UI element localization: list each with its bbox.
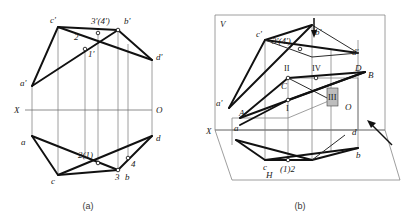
- right-label-d: d: [352, 127, 357, 137]
- right-label-B: B: [368, 70, 374, 80]
- left-label-34-prime: 3'(4'): [90, 16, 110, 26]
- point-4: [126, 156, 130, 160]
- left-label-21: 2(1): [78, 150, 93, 160]
- right-label-C: C: [281, 81, 288, 91]
- right-label-O: O: [345, 102, 352, 112]
- figure-canvas: X O a' c' b' d' a c b d 1' 2': [0, 0, 405, 221]
- left-label-d: d: [156, 133, 161, 143]
- right-label-V: V: [220, 19, 227, 29]
- point-21: [96, 161, 100, 165]
- top-projection-triangles: [236, 135, 358, 160]
- right-label-D: D: [354, 63, 362, 73]
- left-diagram: X O a' c' b' d' a c b d 1' 2': [13, 15, 164, 211]
- front-projection-triangles: [229, 25, 358, 108]
- left-label-X: X: [13, 105, 20, 115]
- right-label-A: A: [238, 108, 245, 118]
- left-label-b-prime: b': [124, 16, 132, 26]
- left-label-2-prime: 2': [74, 32, 82, 42]
- left-label-O: O: [156, 105, 163, 115]
- left-label-d-prime: d': [156, 52, 164, 62]
- point-34-prime: [116, 28, 120, 32]
- left-label-b: b: [125, 172, 130, 182]
- left-label-c-prime: c': [50, 15, 57, 25]
- right-label-rom1: I: [286, 103, 289, 113]
- point-IV: [314, 76, 318, 80]
- point-II: [286, 76, 290, 80]
- right-diagram: V H X O: [205, 15, 400, 211]
- left-label-1-prime: 1': [88, 49, 96, 59]
- right-label-34-prime-3d: 3'(4'): [271, 36, 291, 46]
- up-left-arrow: [367, 120, 392, 145]
- left-label-a: a: [21, 137, 26, 147]
- point-1-prime: [83, 47, 87, 51]
- right-label-X: X: [205, 126, 212, 136]
- right-label-d-prime: d': [352, 47, 360, 57]
- left-label-4: 4: [131, 159, 136, 169]
- point-34-prime-3d: [298, 47, 302, 51]
- right-label-a-prime: a': [216, 98, 224, 108]
- right-label-b: b: [356, 150, 361, 160]
- point-I: [286, 98, 290, 102]
- right-label-rom4: IV: [312, 63, 322, 73]
- point-12: [286, 158, 290, 162]
- right-label-a: a: [234, 123, 239, 133]
- left-label-c: c: [51, 176, 55, 186]
- left-label-a-prime: a': [20, 78, 28, 88]
- caption-b: (b): [295, 201, 306, 211]
- right-label-c-prime: c': [256, 29, 263, 39]
- right-label-12: (1)2: [280, 164, 295, 174]
- right-label-rom2: II: [284, 63, 290, 73]
- spatial-triangles: [240, 72, 365, 125]
- left-label-3: 3: [114, 172, 120, 182]
- right-label-c: c: [263, 162, 267, 172]
- right-label-rom3: III: [328, 92, 337, 102]
- caption-a: (a): [83, 201, 94, 211]
- point-2-prime: [96, 31, 100, 35]
